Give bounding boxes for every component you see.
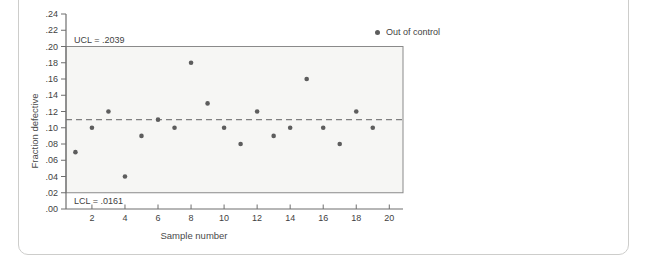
legend-label: Out of control bbox=[386, 27, 440, 37]
x-tick-label: 12 bbox=[252, 213, 262, 223]
y-tick-label: .10 bbox=[45, 123, 58, 133]
y-tick-label: .08 bbox=[45, 139, 58, 149]
y-axis-title: Fraction defective bbox=[30, 94, 40, 169]
y-tick-label: .22 bbox=[45, 25, 58, 35]
y-tick-label: .18 bbox=[45, 58, 58, 68]
figure-canvas: .00.02.04.06.08.10.12.14.16.18.20.22.242… bbox=[0, 0, 650, 271]
y-tick-label: .24 bbox=[45, 9, 58, 19]
y-tick-label: .04 bbox=[45, 172, 58, 182]
data-point bbox=[73, 150, 78, 155]
data-point bbox=[271, 134, 276, 139]
data-point bbox=[139, 134, 144, 139]
x-tick-label: 4 bbox=[122, 213, 127, 223]
data-point bbox=[238, 142, 243, 147]
lcl-annotation: LCL = .0161 bbox=[74, 196, 123, 206]
legend: Out of control bbox=[375, 27, 440, 37]
y-tick-label: .20 bbox=[45, 42, 58, 52]
data-point bbox=[304, 77, 309, 82]
x-tick-label: 18 bbox=[351, 213, 361, 223]
y-tick-label: .16 bbox=[45, 74, 58, 84]
data-point bbox=[172, 125, 177, 130]
data-point bbox=[337, 142, 342, 147]
data-point bbox=[106, 109, 111, 114]
y-tick-label: .02 bbox=[45, 188, 58, 198]
data-point bbox=[222, 125, 227, 130]
data-point bbox=[90, 125, 95, 130]
x-tick-label: 20 bbox=[384, 213, 394, 223]
y-tick-label: .14 bbox=[45, 90, 58, 100]
data-point bbox=[156, 117, 161, 122]
data-point bbox=[123, 174, 128, 179]
x-tick-label: 2 bbox=[89, 213, 94, 223]
data-point bbox=[354, 109, 359, 114]
data-point bbox=[370, 125, 375, 130]
x-tick-label: 14 bbox=[285, 213, 295, 223]
data-point bbox=[288, 125, 293, 130]
data-point bbox=[189, 60, 194, 65]
y-tick-label: .06 bbox=[45, 155, 58, 165]
legend-dot-icon bbox=[375, 30, 380, 35]
y-tick-label: .00 bbox=[45, 204, 58, 214]
y-tick-label: .12 bbox=[45, 107, 58, 117]
ucl-annotation: UCL = .2039 bbox=[74, 35, 124, 45]
data-point bbox=[321, 125, 326, 130]
data-point bbox=[205, 101, 210, 106]
x-axis-title: Sample number bbox=[160, 231, 227, 241]
x-tick-label: 8 bbox=[189, 213, 194, 223]
data-point bbox=[255, 109, 260, 114]
x-tick-label: 6 bbox=[156, 213, 161, 223]
x-tick-label: 10 bbox=[219, 213, 229, 223]
x-tick-label: 16 bbox=[318, 213, 328, 223]
